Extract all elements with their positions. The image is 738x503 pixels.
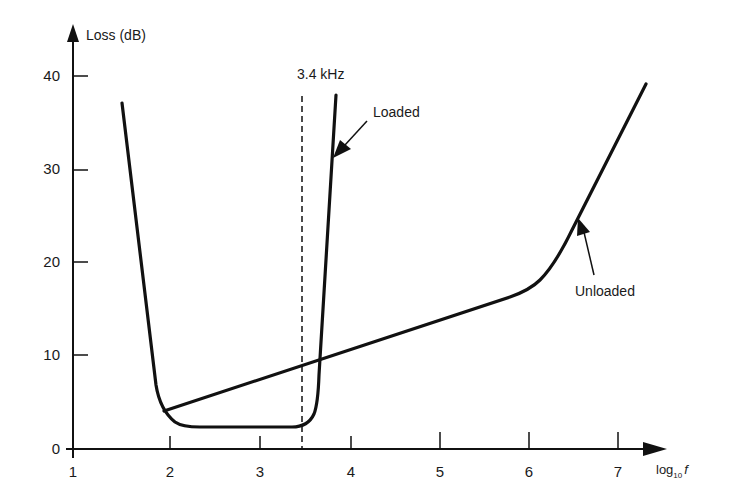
- x-tick-label-4: 4: [341, 463, 361, 480]
- x-axis-label-log: log: [656, 462, 673, 477]
- y-tick-label-20: 20: [20, 253, 60, 270]
- x-axis-label: log10f: [656, 462, 688, 480]
- y-tick-label-40: 40: [20, 67, 60, 84]
- y-tick-label-30: 30: [20, 160, 60, 177]
- y-tick-label-10: 10: [20, 346, 60, 363]
- y-axis-label: Loss (dB): [86, 27, 146, 43]
- x-tick-label-6: 6: [519, 463, 539, 480]
- unloaded-arrow: [577, 218, 594, 275]
- x-ticks: [170, 432, 618, 449]
- unloaded-curve: [164, 84, 646, 411]
- loss-chart: [0, 0, 738, 503]
- y-ticks: [73, 76, 88, 355]
- x-tick-label-7: 7: [608, 463, 628, 480]
- unloaded-label: Unloaded: [575, 283, 635, 299]
- x-axis-arrow-icon: [643, 442, 667, 456]
- x-tick-label-5: 5: [430, 463, 450, 480]
- loaded-arrow: [333, 121, 367, 158]
- loaded-arrowhead-icon: [333, 140, 351, 158]
- unloaded-arrowhead-icon: [577, 218, 590, 236]
- cutoff-label: 3.4 kHz: [297, 66, 344, 82]
- x-axis-label-var: f: [684, 462, 688, 477]
- x-axis-label-base: 10: [673, 471, 682, 480]
- loaded-label: Loaded: [373, 104, 420, 120]
- y-tick-label-0: 0: [20, 440, 60, 457]
- y-axis-arrow-icon: [67, 24, 79, 42]
- x-tick-label-1: 1: [63, 463, 83, 480]
- loaded-curve: [122, 95, 336, 427]
- x-tick-label-2: 2: [160, 463, 180, 480]
- x-tick-label-3: 3: [250, 463, 270, 480]
